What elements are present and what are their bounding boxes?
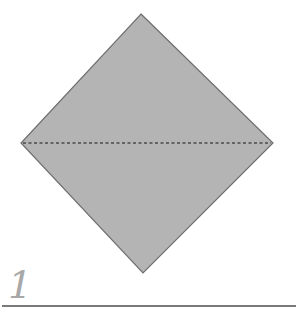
diagram-svg xyxy=(0,0,296,314)
step-underline xyxy=(2,305,296,307)
fold-diagram: 1 xyxy=(0,0,296,314)
step-number: 1 xyxy=(8,266,32,304)
